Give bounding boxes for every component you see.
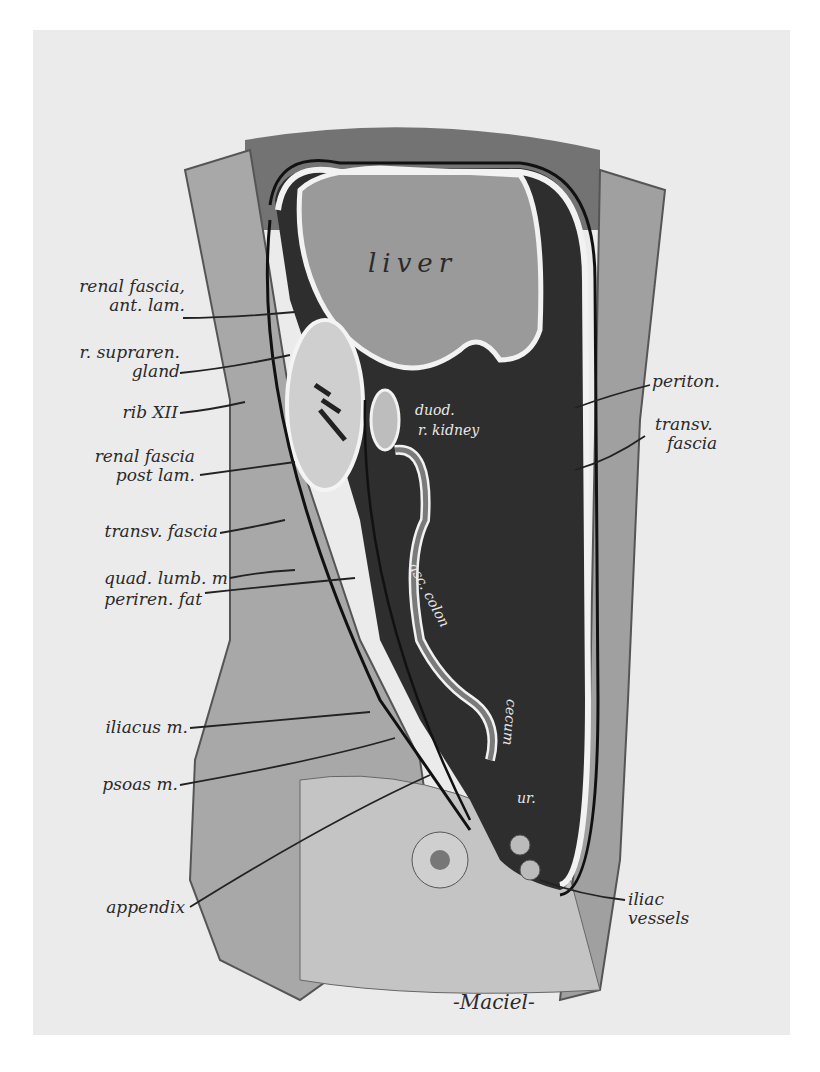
label-ureter: ur. — [517, 790, 536, 806]
label-line: iliac — [628, 890, 689, 909]
label-iliacus-m: iliacus m. — [30, 718, 188, 737]
label-duodenum: duod. — [415, 402, 455, 418]
label-line: renal fascia, — [30, 277, 185, 296]
label-line: rib XII — [30, 403, 178, 422]
label-line: transv. fascia — [30, 522, 218, 541]
label-transv-fascia-left: transv. fascia — [30, 522, 218, 541]
label-liver: liver — [368, 248, 457, 278]
label-iliac-vessels: iliac vessels — [628, 890, 689, 928]
label-line: periren. fat — [30, 590, 202, 609]
label-renal-fascia-ant-lam: renal fascia, ant. lam. — [30, 277, 185, 315]
label-line: post lam. — [30, 466, 195, 485]
label-line: fascia — [655, 434, 717, 453]
label-line: vessels — [628, 909, 689, 928]
label-transv-fascia-right: transv. fascia — [655, 415, 717, 453]
label-supraren-gland: r. supraren. gland — [30, 343, 180, 381]
label-r-kidney: r. kidney — [418, 422, 479, 438]
artist-signature: -Maciel- — [453, 990, 535, 1014]
label-appendix: appendix — [30, 898, 185, 917]
label-line: appendix — [30, 898, 185, 917]
label-line: renal fascia — [30, 447, 195, 466]
label-periton: periton. — [652, 372, 720, 391]
label-line: gland — [30, 362, 180, 381]
label-quad-lumb-m: quad. lumb. m — [30, 569, 228, 588]
label-line: quad. lumb. m — [30, 569, 228, 588]
label-line: periton. — [652, 372, 720, 391]
label-line: r. supraren. — [30, 343, 180, 362]
label-psoas-m: psoas m. — [30, 775, 178, 794]
label-line: iliacus m. — [30, 718, 188, 737]
label-periren-fat: periren. fat — [30, 590, 202, 609]
label-line: ant. lam. — [30, 296, 185, 315]
label-line: psoas m. — [30, 775, 178, 794]
label-renal-fascia-post-lam: renal fascia post lam. — [30, 447, 195, 485]
label-line: transv. — [655, 415, 717, 434]
label-rib-xii: rib XII — [30, 403, 178, 422]
